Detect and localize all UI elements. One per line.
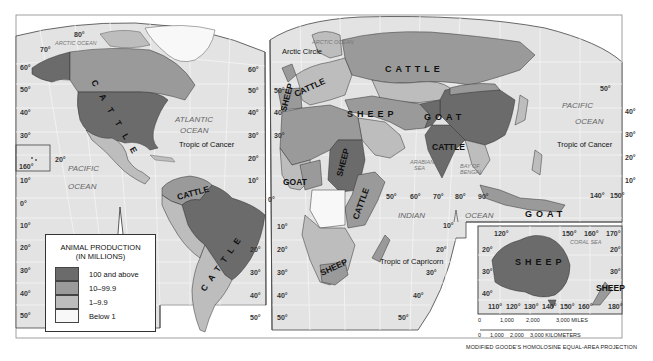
legend-title-line2: (IN MILLIONS) (46, 252, 155, 261)
aus-bottom-160: 160° (578, 303, 593, 310)
legend-item-100-above: 100 and above (55, 267, 139, 281)
lat-20s: 20° (20, 244, 31, 251)
lat-40: 40° (20, 109, 31, 116)
lat-70: 70° (40, 46, 51, 53)
scale-miles-0: 0 (478, 317, 481, 323)
lat-10s: 10° (20, 222, 31, 229)
indian-lat-50: 50° (398, 314, 409, 321)
lat-40s: 40° (20, 290, 31, 297)
africa-lat-20: 20° (277, 246, 288, 253)
legend-label: 100 and above (89, 270, 139, 279)
lat-30: 30° (20, 132, 31, 139)
indian-lon-70: 70° (433, 193, 444, 200)
pacific-lon-140: 140° (590, 192, 605, 199)
aus-top-160: 160° (584, 230, 599, 237)
pacific-lat-30: 30° (625, 131, 636, 138)
coral-sea-label: CORAL SEA (570, 239, 602, 245)
mid-lat-50s: 50° (250, 314, 261, 321)
animal-label-central-asia: GOAT (424, 112, 465, 122)
pacific-lat-20: 20° (625, 154, 636, 161)
pacific-lon-150: 150° (610, 192, 625, 199)
aus-top-170: 170° (606, 230, 621, 237)
aus-bottom-140: 140° (542, 303, 557, 310)
mid-lat-20: 20° (248, 155, 259, 162)
animal-label-new-zealand: SHEEP (596, 283, 625, 293)
legend-swatch (55, 281, 79, 295)
aus-bottom-130: 130° (524, 303, 539, 310)
legend-item-10-99: 10–99.9 (55, 281, 116, 295)
indian-lat-10: 10° (443, 222, 454, 229)
indian-lon-50: 50° (386, 193, 397, 200)
africa-lat-10: 10° (277, 223, 288, 230)
legend-title: ANIMAL PRODUCTION (IN MILLIONS) (46, 243, 155, 261)
lat-50s: 50° (20, 312, 31, 319)
indian-lon-80: 80° (455, 193, 466, 200)
scale-km-2000: 2,000 (510, 332, 524, 338)
pacific-lat-40: 40° (625, 108, 636, 115)
aus-left-30: 30° (482, 268, 493, 275)
lat-50: 50° (20, 86, 31, 93)
legend-label: Below 1 (89, 312, 116, 321)
animal-label-indonesia: GOAT (525, 209, 566, 219)
mid-lat-30: 30° (248, 132, 259, 139)
animal-label-india: CATTLE (432, 142, 465, 152)
legend-item-below-1: Below 1 (55, 309, 116, 323)
scale-km-0: 0 (478, 332, 481, 338)
aus-top-120: 120° (494, 230, 509, 237)
mid-lat-40: 40° (248, 109, 259, 116)
legend-label: 1–9.9 (89, 298, 108, 307)
legend-swatch (55, 309, 79, 323)
africa-lat-50: 50° (277, 314, 288, 321)
animal-label-west-africa: GOAT (283, 177, 308, 187)
legend-item-1-9: 1–9.9 (55, 295, 108, 309)
indian-lat-30: 30° (426, 269, 437, 276)
mid-lat-0: 0° (268, 196, 275, 203)
africa-lat-30: 30° (277, 269, 288, 276)
indian-ocean-label-2: OCEAN (465, 211, 494, 220)
arctic-ocean-label-right: ARCTIC OCEAN (311, 39, 354, 45)
lat-60: 60° (20, 64, 31, 71)
mid-lat-10: 10° (248, 177, 259, 184)
aus-bottom-110: 110° (488, 303, 502, 310)
indian-lon-90: 90° (478, 193, 489, 200)
aus-bottom-180: 180° (608, 303, 623, 310)
aus-top-150: 150° (562, 230, 577, 237)
pacific-ocean-label-left-2: OCEAN (68, 182, 97, 191)
aus-right-20: 20° (610, 246, 621, 253)
aus-bottom-150: 150° (560, 303, 575, 310)
mid-lat-b-50: 50° (274, 87, 285, 94)
scale-miles-3000: 3,000 MILES (556, 317, 588, 323)
mid-lat-50: 50° (248, 87, 259, 94)
arctic-ocean-label-left: ARCTIC OCEAN (54, 40, 97, 46)
hawaii-lat: 20° (55, 156, 66, 163)
mid-lat-30s: 30° (250, 269, 261, 276)
arabian-sea-label-2: SEA (414, 165, 425, 171)
scale-km-3000: 3,000 KILOMETERS (530, 332, 581, 338)
pacific-ocean-label-left-1: PACIFIC (68, 164, 99, 173)
pacific-lat-10: 10° (625, 177, 636, 184)
lat-30s: 30° (20, 267, 31, 274)
mid-lat-40s: 40° (250, 292, 261, 299)
aus-left-40: 40° (482, 290, 493, 297)
pacific-ocean-label-right-1: PACIFIC (562, 101, 593, 110)
africa-lat-40: 40° (277, 292, 288, 299)
mid-lat-b-30: 30° (274, 132, 285, 139)
atlantic-ocean-label-2: OCEAN (180, 126, 209, 135)
scale-km-1000: 1,000 (490, 332, 504, 338)
legend: ANIMAL PRODUCTION (IN MILLIONS) 100 and … (45, 234, 156, 332)
scale-miles-2000: 2,000 (526, 317, 540, 323)
scale-km: 0 1,000 2,000 3,000 KILOMETERS (478, 332, 648, 342)
arctic-circle-label: Arctic Circle (282, 47, 322, 56)
animal-label-russia: CATTLE (385, 64, 444, 74)
animal-label-australia: SHEEP (515, 257, 566, 267)
pacific-ocean-label-right-2: OCEAN (575, 117, 604, 126)
indian-lat-20: 20° (436, 246, 447, 253)
pacific-lat-50: 50° (600, 85, 611, 92)
scale-miles-1000: 1,000 (500, 317, 514, 323)
indian-ocean-label-1: INDIAN (398, 211, 425, 220)
animal-label-middle-east: SHEEP (347, 109, 398, 119)
legend-swatch (55, 295, 79, 309)
aus-left-20: 20° (482, 246, 493, 253)
tropic-cancer-label-right: Tropic of Cancer (557, 140, 613, 149)
legend-swatch (55, 267, 79, 281)
